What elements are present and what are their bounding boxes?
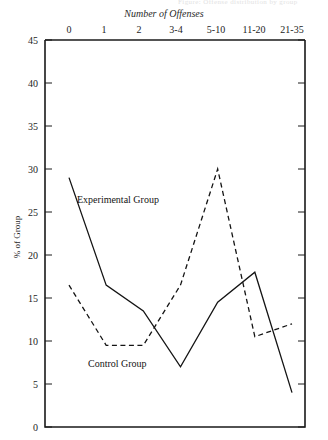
y-tick-label-5: 5 xyxy=(33,379,38,390)
x-tick-label-4: 5-10 xyxy=(207,24,225,35)
x-tick-label-0: 0 xyxy=(67,24,72,35)
chart-figure: Figure: Offense distribution by group Nu… xyxy=(0,0,328,440)
y-tick-label-30: 30 xyxy=(28,164,38,175)
plot-area xyxy=(0,0,328,440)
series-annotation-control-group: Control Group xyxy=(88,358,147,369)
axis-frame xyxy=(45,40,305,427)
x-tick-label-3: 3-4 xyxy=(169,24,182,35)
running-head-text: Figure: Offense distribution by group xyxy=(178,0,328,8)
y-tick-marks xyxy=(45,40,52,427)
y-tick-label-20: 20 xyxy=(28,250,38,261)
y-tick-label-15: 15 xyxy=(28,293,38,304)
y-tick-label-0: 0 xyxy=(33,422,38,433)
y-tick-label-45: 45 xyxy=(28,35,38,46)
x-tick-label-6: 21-35 xyxy=(280,24,303,35)
x-tick-label-2: 2 xyxy=(137,24,142,35)
y-tick-marks-right xyxy=(298,40,305,427)
y-axis-title: % of Group xyxy=(12,202,22,272)
series-annotation-experimental-group: Experimental Group xyxy=(77,194,159,205)
x-tick-label-1: 1 xyxy=(102,24,107,35)
x-axis-title: Number of Offenses xyxy=(0,8,328,19)
y-tick-label-10: 10 xyxy=(28,336,38,347)
y-tick-label-35: 35 xyxy=(28,121,38,132)
y-tick-label-25: 25 xyxy=(28,207,38,218)
x-tick-label-5: 11-20 xyxy=(243,24,266,35)
y-tick-label-40: 40 xyxy=(28,78,38,89)
